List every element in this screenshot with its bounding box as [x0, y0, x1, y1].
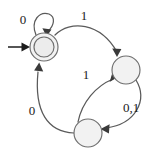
transition-q2-q0[interactable]: 0 — [29, 63, 74, 134]
state-q1-circle — [112, 56, 140, 84]
transition-q0-q0-label: 0 — [20, 12, 27, 27]
transition-q0-q1-arrowhead — [112, 49, 121, 57]
state-q0-inner-circle — [34, 37, 54, 57]
state-q0[interactable] — [30, 33, 58, 61]
transition-q0-q1-label: 1 — [81, 8, 88, 23]
transition-q1-q2[interactable]: 0,1 — [101, 80, 141, 133]
transition-q0-q1[interactable]: 1 — [55, 8, 121, 57]
transition-q0-q1-path — [55, 26, 117, 52]
transition-q2-q0-path — [37, 72, 74, 133]
transition-q0-q0-path — [34, 13, 53, 35]
transition-q2-q1-label: 1 — [83, 67, 90, 82]
state-q1[interactable] — [112, 56, 140, 84]
start-arrow-arrowhead — [22, 43, 31, 52]
transition-q2-q0-label: 0 — [29, 103, 36, 118]
state-q2-circle — [74, 119, 102, 147]
transition-q2-q0-arrowhead — [34, 63, 43, 72]
transition-q1-q2-label: 0,1 — [123, 100, 139, 115]
transition-q2-q1-path — [78, 79, 113, 122]
start-arrow — [8, 43, 30, 52]
state-diagram: 1 0,1 1 0 0 — [0, 0, 156, 153]
state-q2[interactable] — [74, 119, 102, 147]
transition-q2-q1[interactable]: 1 — [78, 67, 118, 122]
transition-q0-q0-selfloop[interactable]: 0 — [20, 12, 54, 36]
diagram-canvas: 1 0,1 1 0 0 — [0, 0, 156, 153]
